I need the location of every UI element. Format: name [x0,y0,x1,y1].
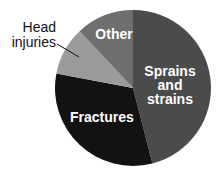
label-sprains-line2: and strains [135,78,205,106]
label-sprains-line1: Sprains [135,64,205,78]
label-head-line2: injuries [4,35,56,50]
label-fractures: Fractures [70,110,130,124]
label-head-line1: Head [4,20,56,35]
label-sprains: Sprains and strains [135,64,205,106]
label-head-injuries: Head injuries [4,20,56,50]
label-other: Other [91,27,137,41]
